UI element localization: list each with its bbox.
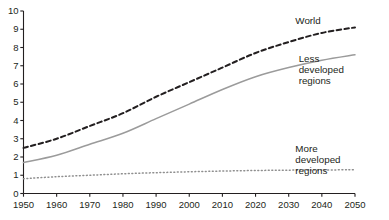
x-tick-label: 2020 [245,200,266,210]
x-tick-label: 1990 [146,200,167,210]
x-tick-label: 2010 [212,200,233,210]
x-tick-label: 1980 [112,200,133,210]
population-projection-chart: 012345678910 195019601970198019902000201… [0,0,389,220]
x-tick-label: 2050 [344,200,365,210]
plot-area [0,0,389,220]
x-tick-label: 2040 [311,200,332,210]
x-tick-label: 1960 [46,200,67,210]
y-tick-label: 6 [3,79,19,89]
series-label-world: World [295,15,320,27]
y-tick-label: 0 [3,189,19,199]
y-tick-label: 10 [3,6,19,16]
y-tick-label: 9 [3,24,19,34]
series-line-1 [24,27,356,147]
series-label-regions: regions [299,75,331,87]
x-tick-label: 1950 [13,200,34,210]
x-tick-label: 2030 [278,200,299,210]
series-label-developed: developed [299,64,344,76]
series-label-more: More [295,143,317,155]
y-tick-label: 7 [3,61,19,71]
y-tick-label: 3 [3,134,19,144]
series-label-developed: developed [295,154,340,166]
y-tick-label: 8 [3,43,19,53]
x-tick-label: 2000 [179,200,200,210]
y-tick-label: 5 [3,97,19,107]
series-label-less: Less [299,53,320,65]
series-label-regions: regions [295,165,327,177]
y-tick-label: 2 [3,152,19,162]
y-tick-label: 1 [3,170,19,180]
x-tick-label: 1970 [79,200,100,210]
y-tick-label: 4 [3,116,19,126]
